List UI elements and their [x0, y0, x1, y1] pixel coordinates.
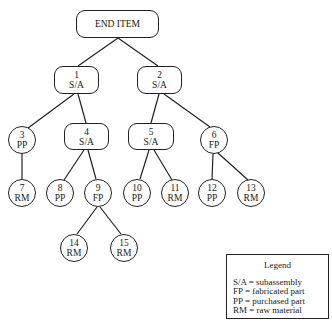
node-7: 7 RM — [8, 179, 36, 207]
node-label: END ITEM — [95, 19, 140, 29]
edge-4-8 — [64, 150, 84, 180]
node-2: 2 S/A — [137, 66, 182, 94]
node-type: FP — [209, 140, 220, 150]
node-id: 1 — [74, 70, 79, 80]
node-type: RM — [244, 193, 259, 203]
edge-end-1 — [78, 38, 118, 66]
node-13: 13 RM — [237, 179, 265, 207]
node-3: 3 PP — [8, 126, 36, 154]
node-1: 1 S/A — [54, 66, 99, 94]
node-12: 12 PP — [198, 179, 226, 207]
node-14: 14 RM — [60, 234, 88, 262]
edge-1-4 — [78, 94, 86, 123]
edge-6-13 — [218, 153, 248, 180]
node-4: 4 S/A — [64, 123, 109, 150]
node-type: RM — [168, 193, 183, 203]
edge-5-10 — [140, 150, 149, 179]
edge-9-14 — [77, 207, 97, 234]
edge-4-9 — [88, 150, 96, 179]
node-id: 5 — [149, 127, 154, 137]
node-type: S/A — [144, 137, 159, 147]
node-id: 11 — [170, 183, 179, 193]
edge-1-3 — [28, 94, 74, 128]
node-9: 9 FP — [84, 179, 112, 207]
edge-9-15 — [100, 207, 121, 234]
node-15: 15 RM — [110, 234, 138, 262]
node-5: 5 S/A — [128, 123, 174, 150]
node-id: 12 — [207, 183, 217, 193]
node-type: RM — [67, 248, 82, 258]
node-id: 4 — [84, 127, 89, 137]
edge-2-5 — [151, 94, 159, 123]
node-id: 2 — [157, 70, 162, 80]
edge-5-11 — [154, 150, 172, 180]
node-type: RM — [15, 193, 30, 203]
node-type: PP — [17, 140, 28, 150]
node-id: 8 — [58, 183, 63, 193]
node-type: PP — [55, 193, 66, 203]
node-id: 14 — [69, 238, 79, 248]
node-10: 10 PP — [123, 179, 151, 207]
node-end-item: END ITEM — [76, 10, 159, 38]
node-type: PP — [207, 193, 218, 203]
node-type: S/A — [69, 80, 84, 90]
edge-2-6 — [164, 94, 210, 127]
node-id: 3 — [20, 130, 25, 140]
edge-6-12 — [212, 154, 213, 179]
node-11: 11 RM — [161, 179, 189, 207]
legend-box: Legend S/A = subassembly FP = fabricated… — [226, 254, 329, 319]
node-type: PP — [132, 193, 143, 203]
node-type: S/A — [79, 137, 94, 147]
node-6: 6 FP — [200, 126, 228, 154]
node-id: 13 — [246, 183, 256, 193]
node-id: 15 — [119, 238, 129, 248]
node-type: FP — [93, 193, 104, 203]
node-type: S/A — [152, 80, 167, 90]
node-8: 8 PP — [46, 179, 74, 207]
legend-title: Legend — [227, 261, 328, 271]
node-id: 10 — [132, 183, 142, 193]
node-id: 9 — [96, 183, 101, 193]
node-id: 7 — [20, 183, 25, 193]
node-id: 6 — [212, 130, 217, 140]
node-type: RM — [117, 248, 132, 258]
edge-end-2 — [118, 38, 158, 66]
legend-entry: RM = raw material — [227, 306, 328, 316]
